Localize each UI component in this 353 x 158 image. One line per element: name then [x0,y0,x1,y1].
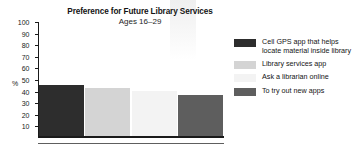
y-axis-tick: 60 [35,68,39,69]
y-axis-tick-label: 90 [22,30,30,37]
x-axis-line [38,136,224,138]
y-axis-tick: 20 [35,115,39,116]
y-axis-tick-label: 100 [18,19,30,26]
legend-item-label: Cell GPS app that helps locate material … [262,38,353,55]
legend-item: Ask a librarian online [234,73,353,82]
legend-item: To try out new apps [234,87,353,96]
y-axis-tick: 100 [35,22,39,23]
y-axis-tick-label: 60 [22,65,30,72]
y-axis-tick-label: 70 [22,53,30,60]
legend-item-label: To try out new apps [262,87,324,96]
bar [132,91,177,137]
legend-item-label: Ask a librarian online [262,73,329,82]
y-axis-tick: 80 [35,45,39,46]
y-axis-tick-label: 50 [22,77,30,84]
y-axis-tick-label: 20 [22,111,30,118]
x-axis-secondary-rule [38,143,224,144]
y-axis-tick-label: 10 [22,123,30,130]
legend-color-swatch [234,74,256,82]
y-axis-tick-label: 30 [22,100,30,107]
bar-series [39,22,224,136]
legend-color-swatch [234,88,256,96]
y-axis-tick: 40 [35,92,39,93]
legend-color-swatch [234,61,256,69]
legend-item: Cell GPS app that helps locate material … [234,38,353,55]
legend-color-swatch [234,39,256,47]
legend-item: Library services app [234,60,353,69]
legend-item-label: Library services app [262,60,326,69]
y-axis-tick-label: 80 [22,42,30,49]
y-axis-tick-label: 40 [22,88,30,95]
plot-area: 102030405060708090100 [38,22,224,138]
y-axis-tick: 30 [35,103,39,104]
y-axis-tick: 10 [35,126,39,127]
y-axis-tick: 50 [35,80,39,81]
bar [178,95,223,136]
y-axis-tick: 70 [35,57,39,58]
bar-chart-figure: Preference for Future Library Services A… [0,0,353,158]
chart-legend: Cell GPS app that helps locate material … [234,38,353,100]
bar [39,85,84,136]
y-axis-tick: 90 [35,34,39,35]
chart-title: Preference for Future Library Services [40,7,240,17]
bar [85,88,130,136]
y-axis-unit-label: % [12,80,18,87]
